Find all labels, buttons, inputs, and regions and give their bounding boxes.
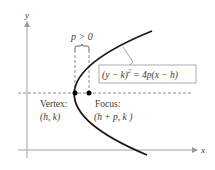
focus-point [87, 91, 92, 96]
equation-lhs: (y − k) [102, 70, 128, 81]
focus-title: Focus: [95, 99, 120, 109]
equation-rhs: = 4p(x − h) [131, 70, 178, 81]
parabola-diagram: y x p > 0 (y − k)2 = 4p(x − h) Vertex: (… [0, 0, 215, 170]
vertex-coords: (h, k) [40, 112, 60, 123]
equation-text: (y − k)2 = 4p(x − h) [102, 68, 178, 81]
focus-coords: (h + p, k ) [94, 112, 132, 123]
equation-leader-line [123, 47, 133, 65]
y-axis-label: y [24, 10, 29, 20]
distance-brace [75, 44, 89, 52]
vertex-point [73, 91, 78, 96]
vertex-title: Vertex: [40, 99, 67, 109]
brace-label: p > 0 [70, 31, 93, 42]
x-axis-label: x [200, 145, 205, 155]
